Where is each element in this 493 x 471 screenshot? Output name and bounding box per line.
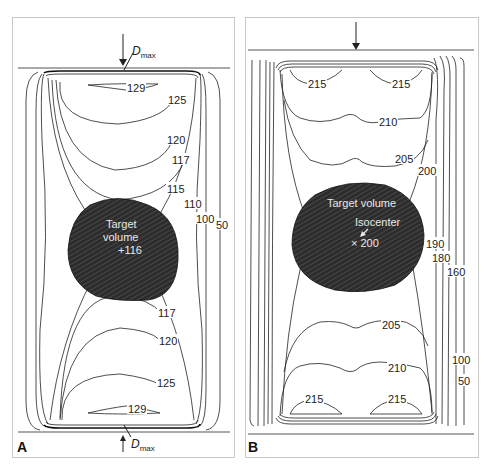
panel-a: Dmax Dmax (13, 18, 235, 458)
label-a-50: 50 (216, 219, 228, 231)
panel-b-isocenter-dose: × 200 (351, 237, 379, 249)
label-a-129-top: 129 (127, 82, 145, 94)
panel-a-bottom-arrow-icon (120, 435, 126, 452)
panel-b-target-label: Target volume (327, 197, 396, 209)
label-b-215-bottom-left: 215 (305, 393, 323, 405)
label-a-117-bottom: 117 (158, 307, 176, 319)
isodose-b-surface-top-1 (276, 61, 438, 70)
label-b-190: 190 (426, 238, 444, 250)
isodose-117-top (52, 80, 185, 200)
panel-a-target-label-2: volume (103, 231, 138, 243)
isodose-100-right (200, 74, 206, 426)
label-a-125-bottom: 125 (157, 377, 175, 389)
isodose-b-50-right (460, 58, 464, 425)
panel-a-bottom-dmax-leader (124, 425, 131, 437)
isodose-125-top (60, 82, 172, 124)
isodose-b-100-left (258, 60, 260, 426)
label-b-215-top-right: 215 (392, 78, 410, 90)
panel-a-top-arrow-icon (119, 34, 127, 66)
panel-a-top-dmax-label: Dmax (132, 44, 156, 60)
panel-b: Target volume Isocenter × 200 215 215 21… (246, 18, 479, 458)
label-a-117-top: 117 (172, 154, 190, 166)
isodose-50-left (26, 72, 40, 430)
isodose-b-180-left (268, 62, 270, 424)
label-b-205-bottom: 205 (382, 319, 400, 331)
label-b-50: 50 (458, 375, 470, 387)
label-a-110: 110 (184, 198, 202, 210)
label-a-115: 115 (167, 183, 185, 195)
label-b-205-top: 205 (395, 153, 413, 165)
isodose-b-surface-bottom-3 (280, 412, 434, 418)
label-b-210-bottom: 210 (388, 362, 406, 374)
isodose-117-bottom (60, 296, 162, 418)
isodose-b-190-left (272, 62, 274, 424)
label-b-210-top: 210 (379, 116, 397, 128)
isodose-110-left (40, 74, 48, 424)
label-b-215-bottom-right: 215 (388, 393, 406, 405)
isodose-figure: Dmax Dmax (0, 0, 493, 471)
isodose-110-right (196, 74, 202, 424)
isodose-b-100-right (452, 56, 456, 426)
isodose-b-160-right (446, 56, 450, 426)
panel-a-letter: A (17, 439, 27, 455)
label-b-180: 180 (432, 252, 450, 264)
isodose-b-160-left (264, 60, 266, 426)
panel-a-target-label-1: Target (106, 218, 137, 230)
isodose-b-surface-bottom-2 (278, 414, 436, 421)
panel-a-target-dose: +116 (118, 244, 142, 256)
label-b-160: 160 (447, 266, 465, 278)
isodose-surface-top-2 (46, 74, 198, 78)
isodose-b-surface-top-2 (278, 64, 436, 72)
isodose-b-surface-bottom-1 (276, 416, 438, 424)
isodose-50-right (206, 72, 220, 430)
label-a-120-bottom: 120 (159, 335, 177, 347)
label-b-100: 100 (452, 354, 470, 366)
label-a-120-top: 120 (167, 134, 185, 146)
isodose-120-top (56, 80, 172, 170)
isodose-surface-bottom-2 (46, 420, 198, 425)
isodose-129-bottom (88, 406, 160, 414)
panel-b-isocenter-label: Isocenter (355, 216, 401, 228)
isodose-b-surface-top-3 (280, 67, 434, 74)
label-b-215-top-left: 215 (308, 78, 326, 90)
label-a-125-top: 125 (168, 94, 186, 106)
label-a-100: 100 (196, 213, 214, 225)
isodose-b-50-left (250, 60, 254, 426)
panel-b-letter: B (248, 439, 258, 455)
label-b-200: 200 (418, 165, 436, 177)
panel-b-top-arrow-icon (352, 22, 360, 50)
isodose-129-top (88, 84, 158, 90)
panel-a-bottom-dmax-label: Dmax (131, 437, 155, 453)
isodose-b-210-bottom (280, 362, 432, 416)
label-a-129-bottom: 129 (128, 403, 146, 415)
